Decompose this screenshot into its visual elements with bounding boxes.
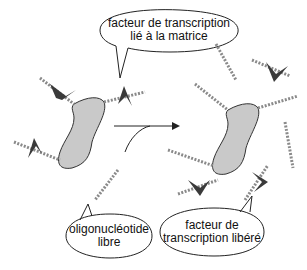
- diagram-canvas: facteur de transcription lié à la matric…: [0, 0, 307, 270]
- matrix-right: [213, 104, 259, 175]
- label-free-oligo: oligonucléotide libre: [66, 223, 152, 249]
- label-bound-factor: facteur de transcription lié à la matric…: [104, 17, 234, 43]
- label-bound-factor-line2: lié à la matrice: [104, 30, 234, 43]
- label-released-factor: facteur de transcription libéré: [160, 219, 264, 245]
- matrix-left: [59, 98, 105, 169]
- process-arrow: [114, 122, 180, 152]
- label-free-oligo-line2: libre: [66, 236, 152, 249]
- label-released-factor-line2: transcription libéré: [160, 232, 264, 245]
